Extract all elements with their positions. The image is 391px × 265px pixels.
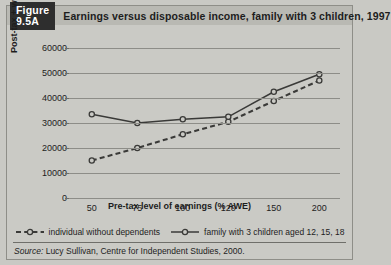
chart-legend: individual without dependentsfamily with… xyxy=(7,224,352,240)
legend-label: individual without dependents xyxy=(49,227,161,237)
data-point-marker xyxy=(89,112,94,117)
source-divider xyxy=(13,242,346,243)
y-tick-mark xyxy=(65,73,69,74)
data-point-marker xyxy=(271,98,276,103)
figure-panel: Figure 9.5A Earnings versus disposable i… xyxy=(6,5,353,260)
grid-line xyxy=(69,123,340,124)
y-tick-mark xyxy=(65,173,69,174)
y-axis-label: Post-tax + welfare annual income -$s xyxy=(9,0,19,53)
y-tick-mark xyxy=(65,123,69,124)
source-text: Lucy Sullivan, Centre for Independent St… xyxy=(43,246,244,256)
grid-line xyxy=(69,98,340,99)
data-point-marker xyxy=(180,117,185,122)
grid-line xyxy=(69,173,340,174)
y-tick-mark xyxy=(65,48,69,49)
data-point-marker xyxy=(226,114,231,119)
legend-label: family with 3 children aged 12, 15, 18 xyxy=(204,227,344,237)
y-axis-ticks: 0100002000030000400005000060000 xyxy=(21,25,67,223)
series-lines xyxy=(69,25,362,218)
data-point-marker xyxy=(89,158,94,163)
y-tick-label: 50000 xyxy=(42,68,67,78)
source-label: Source: xyxy=(14,246,43,256)
grid-line xyxy=(69,148,340,149)
y-tick-mark xyxy=(65,148,69,149)
grid-line xyxy=(69,48,340,49)
figure-header: Figure 9.5A Earnings versus disposable i… xyxy=(7,6,352,25)
y-tick-label: 40000 xyxy=(42,93,67,103)
figure-title: Earnings versus disposable income, famil… xyxy=(63,10,390,22)
x-axis-label: Pre-tax level of earnings (% AWE) xyxy=(7,201,352,211)
y-tick-label: 10000 xyxy=(42,168,67,178)
y-tick-label: 30000 xyxy=(42,118,67,128)
data-point-marker xyxy=(317,78,322,83)
y-tick-mark xyxy=(65,198,69,199)
source-note: Source: Lucy Sullivan, Centre for Indepe… xyxy=(14,246,245,256)
data-point-marker xyxy=(180,132,185,137)
y-tick-label: 60000 xyxy=(42,43,67,53)
plot-axes: 5075100120150200 xyxy=(69,25,340,223)
grid-line xyxy=(69,198,340,199)
legend-item: individual without dependents xyxy=(15,227,161,237)
y-tick-mark xyxy=(65,98,69,99)
grid-line xyxy=(69,73,340,74)
legend-swatch xyxy=(170,227,200,237)
chart-area: Post-tax + welfare annual income -$s 010… xyxy=(7,25,352,223)
y-tick-label: 20000 xyxy=(42,143,67,153)
legend-item: family with 3 children aged 12, 15, 18 xyxy=(170,227,344,237)
data-point-marker xyxy=(271,89,276,94)
legend-swatch xyxy=(15,227,45,237)
